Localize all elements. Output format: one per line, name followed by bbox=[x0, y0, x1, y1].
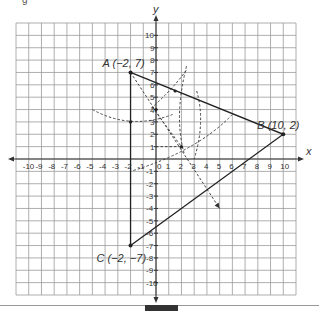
x-tick-label: -3 bbox=[112, 162, 120, 171]
x-tick-label: 5 bbox=[217, 162, 222, 171]
y-tick-label: 7 bbox=[150, 68, 155, 77]
x-tick-label: 9 bbox=[268, 162, 273, 171]
vertex-b bbox=[281, 132, 285, 136]
angle-bisector-line bbox=[131, 72, 220, 208]
x-tick-label: 3 bbox=[191, 162, 196, 171]
x-tick-label: 10 bbox=[280, 162, 289, 171]
compass-arc bbox=[92, 110, 172, 122]
y-axis-arrow-down-icon bbox=[154, 297, 159, 303]
y-tick-label: -10 bbox=[146, 279, 158, 288]
x-tick-label: -7 bbox=[61, 162, 69, 171]
vertex-c bbox=[129, 244, 133, 248]
x-axis-arrow-right-icon bbox=[298, 157, 304, 162]
intersection-point bbox=[154, 108, 157, 111]
y-tick-label: 1 bbox=[150, 143, 155, 152]
x-tick-label: 8 bbox=[255, 162, 260, 171]
vertex-a bbox=[129, 70, 133, 74]
bisector-arrow-icon bbox=[215, 202, 220, 208]
x-tick-label: -6 bbox=[74, 162, 82, 171]
construction-line bbox=[152, 107, 181, 147]
x-tick-label: 0 bbox=[157, 162, 162, 171]
y-axis-label: y bbox=[152, 3, 160, 15]
vertex-labels: A (−2, 7)B (10, 2)C (−2, −7) bbox=[97, 57, 300, 263]
x-tick-label: -5 bbox=[86, 162, 94, 171]
y-tick-label: 10 bbox=[145, 31, 154, 40]
x-tick-label: 2 bbox=[178, 162, 183, 171]
page-tab-marker bbox=[145, 305, 178, 311]
y-axis-arrow-up-icon bbox=[154, 15, 159, 21]
vertex-label-a: A (−2, 7) bbox=[102, 57, 145, 69]
y-tick-label: 5 bbox=[150, 93, 155, 102]
coordinate-plane: xy -10-9-8-7-6-5-4-3-2-10123456789101098… bbox=[0, 0, 319, 305]
y-tick-label: 2 bbox=[150, 130, 155, 139]
x-tick-label: -8 bbox=[48, 162, 56, 171]
x-tick-label: 1 bbox=[166, 162, 171, 171]
y-tick-label: -4 bbox=[146, 204, 154, 213]
y-tick-label: 8 bbox=[150, 56, 155, 65]
x-tick-label: -1 bbox=[137, 162, 145, 171]
x-tick-label: -9 bbox=[35, 162, 43, 171]
x-tick-label: -10 bbox=[23, 162, 35, 171]
y-tick-label: -1 bbox=[146, 167, 154, 176]
vertex-label-b: B (10, 2) bbox=[257, 119, 300, 131]
y-tick-label: -2 bbox=[146, 180, 154, 189]
y-tick-label: -9 bbox=[146, 266, 154, 275]
intersection-point bbox=[180, 145, 183, 148]
x-axis-arrow-left-icon bbox=[8, 157, 14, 162]
y-tick-label: -5 bbox=[146, 217, 154, 226]
y-tick-label: -7 bbox=[146, 242, 154, 251]
y-tick-label: -3 bbox=[146, 192, 154, 201]
y-tick-label: -8 bbox=[146, 254, 154, 263]
x-tick-label: -4 bbox=[99, 162, 107, 171]
compass-arc bbox=[194, 91, 200, 159]
x-axis-label: x bbox=[305, 145, 312, 157]
vertex-label-c: C (−2, −7) bbox=[97, 252, 147, 264]
y-tick-label: 9 bbox=[150, 44, 155, 53]
x-tick-label: 4 bbox=[204, 162, 209, 171]
